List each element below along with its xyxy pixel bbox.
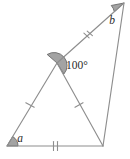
geometry-figure: a 100° b [0, 0, 130, 159]
edge-AC [7, 63, 57, 146]
edge-CB [57, 3, 124, 63]
tick-marks [26, 31, 93, 150]
figure-edges [7, 3, 124, 146]
angle-b-label: b [109, 14, 115, 26]
angle-100-label: 100° [66, 59, 88, 71]
figure-canvas: a 100° b [0, 0, 130, 159]
angle-a-label: a [17, 132, 23, 144]
